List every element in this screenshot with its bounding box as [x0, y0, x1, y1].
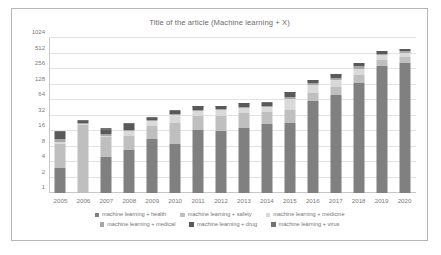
bar-segment[interactable]: [170, 123, 181, 144]
bar-column[interactable]: 2009: [141, 38, 164, 193]
bar-column[interactable]: 2011: [187, 38, 210, 193]
x-axis-tick-label: 2019: [375, 198, 389, 204]
legend-swatch-icon: [266, 213, 271, 218]
bar-column[interactable]: 2020: [393, 38, 416, 193]
legend-item[interactable]: machine learning + virus: [271, 222, 339, 228]
x-axis-tick-label: 2014: [260, 198, 274, 204]
bar-segment[interactable]: [238, 128, 249, 193]
x-axis-tick-label: 2016: [306, 198, 320, 204]
bar-stack[interactable]: [376, 51, 387, 193]
bar-stack[interactable]: [261, 102, 272, 193]
bar-column[interactable]: 2017: [324, 38, 347, 193]
x-axis-tick-label: 2012: [214, 198, 228, 204]
legend-item[interactable]: machine learning + medicine: [266, 212, 345, 218]
x-axis-tick-label: 2013: [237, 198, 251, 204]
bar-stack[interactable]: [124, 123, 135, 193]
bar-segment[interactable]: [284, 123, 295, 193]
bar-segment[interactable]: [216, 131, 227, 193]
bar-column[interactable]: 2018: [347, 38, 370, 193]
bar-stack[interactable]: [330, 74, 341, 193]
plot-area: 10245122561286432168421 2005200620072008…: [49, 38, 416, 193]
bar-segment[interactable]: [330, 87, 341, 95]
bar-column[interactable]: 2007: [95, 38, 118, 193]
bar-column[interactable]: 2015: [278, 38, 301, 193]
bar-segment[interactable]: [284, 110, 295, 123]
bar-segment[interactable]: [330, 95, 341, 193]
bar-stack[interactable]: [216, 106, 227, 193]
bar-column[interactable]: 2019: [370, 38, 393, 193]
legend-label: machine learning + medical: [107, 222, 175, 228]
bar-stack[interactable]: [238, 103, 249, 193]
bar-segment[interactable]: [284, 99, 295, 110]
bar-segment[interactable]: [193, 130, 204, 193]
bar-segment[interactable]: [55, 144, 66, 169]
bar-segment[interactable]: [399, 63, 410, 193]
chart-legend: machine learning + healthmachine learnin…: [12, 212, 427, 227]
bar-column[interactable]: 2010: [164, 38, 187, 193]
bar-segment[interactable]: [353, 75, 364, 83]
bar-column[interactable]: 2012: [210, 38, 233, 193]
bar-segment[interactable]: [261, 112, 272, 124]
bar-column[interactable]: 2006: [72, 38, 95, 193]
bar-stack[interactable]: [353, 63, 364, 193]
bar-stack[interactable]: [147, 117, 158, 193]
x-axis-tick-label: 2015: [283, 198, 297, 204]
bar-segment[interactable]: [55, 168, 66, 193]
y-axis-tick-label: 1024: [32, 29, 45, 35]
bar-segment[interactable]: [376, 66, 387, 193]
x-axis-tick-label: 2005: [54, 198, 68, 204]
legend-label: machine learning + health: [102, 212, 166, 218]
bar-segment[interactable]: [101, 137, 112, 157]
bar-segment[interactable]: [216, 116, 227, 132]
bar-segment[interactable]: [376, 60, 387, 67]
bar-stack[interactable]: [55, 131, 66, 193]
legend-swatch-icon: [95, 213, 100, 218]
legend-swatch-icon: [271, 222, 276, 227]
bar-segment[interactable]: [78, 125, 89, 193]
legend-row: machine learning + healthmachine learnin…: [95, 212, 345, 218]
bar-stack[interactable]: [193, 106, 204, 193]
bar-segment[interactable]: [193, 116, 204, 129]
bar-segment[interactable]: [170, 115, 181, 123]
bar-segment[interactable]: [307, 101, 318, 193]
x-axis-tick-label: 2020: [398, 198, 412, 204]
bar-segment[interactable]: [261, 124, 272, 193]
bar-segment[interactable]: [238, 113, 249, 129]
bar-stack[interactable]: [399, 49, 410, 193]
bar-column[interactable]: 2016: [301, 38, 324, 193]
legend-label: machine learning + medicine: [273, 212, 344, 218]
x-axis-tick-label: 2009: [145, 198, 159, 204]
bar-segment[interactable]: [307, 93, 318, 101]
bar-column[interactable]: 2014: [255, 38, 278, 193]
legend-item[interactable]: machine learning + drug: [189, 222, 257, 228]
y-axis-tick-label: 16: [38, 122, 45, 128]
y-axis-tick-label: 32: [38, 107, 45, 113]
bar-stack[interactable]: [78, 120, 89, 193]
bar-segment[interactable]: [147, 126, 158, 139]
bar-segment[interactable]: [170, 144, 181, 193]
legend-swatch-icon: [189, 222, 194, 227]
bar-column[interactable]: 2008: [118, 38, 141, 193]
bar-column[interactable]: 2005: [49, 38, 72, 193]
bar-segment[interactable]: [330, 80, 341, 87]
bar-segment[interactable]: [124, 150, 135, 194]
bar-segment[interactable]: [101, 157, 112, 193]
bar-stack[interactable]: [170, 110, 181, 193]
bar-segment[interactable]: [147, 139, 158, 193]
y-axis-tick-label: 128: [35, 76, 45, 82]
bar-stack[interactable]: [307, 80, 318, 193]
bar-stack[interactable]: [284, 92, 295, 193]
bar-series-group: 2005200620072008200920102011201220132014…: [49, 38, 416, 193]
bar-segment[interactable]: [55, 132, 66, 139]
y-axis-tick-label: 4: [42, 153, 45, 159]
legend-item[interactable]: machine learning + medical: [100, 222, 176, 228]
bar-stack[interactable]: [101, 128, 112, 193]
legend-item[interactable]: machine learning + safety: [180, 212, 251, 218]
legend-item[interactable]: machine learning + health: [95, 212, 167, 218]
bar-segment[interactable]: [124, 136, 135, 150]
y-axis-tick-label: 512: [35, 45, 45, 51]
bar-segment[interactable]: [307, 85, 318, 92]
bar-segment[interactable]: [353, 83, 364, 194]
bar-column[interactable]: 2013: [233, 38, 256, 193]
chart-title: Title of the article (Machine learning +…: [12, 18, 427, 27]
